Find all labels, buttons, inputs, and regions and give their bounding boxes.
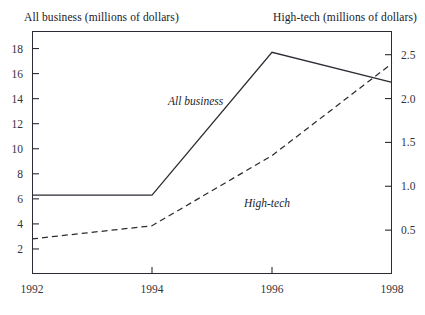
- right-tick-label: 2.0: [401, 93, 415, 105]
- left-tick-label: 6: [17, 193, 23, 205]
- left-tick-label: 14: [12, 93, 24, 105]
- left-tick-label: 4: [17, 218, 23, 230]
- right-axis-title: High-tech (millions of dollars): [273, 11, 417, 24]
- left-tick-label: 16: [12, 68, 24, 80]
- right-tick-label: 1.0: [401, 180, 415, 192]
- left-tick-label: 8: [17, 168, 23, 180]
- left-axis-title: All business (millions of dollars): [24, 11, 179, 24]
- series-annotation-high-tech: High-tech: [244, 197, 290, 209]
- left-tick-label: 2: [17, 243, 23, 255]
- x-tick-label: 1994: [141, 283, 164, 295]
- right-tick-label: 1.5: [401, 136, 415, 148]
- left-tick-label: 12: [12, 118, 24, 130]
- series-annotation-all-business: All business: [168, 95, 223, 107]
- chart-figure: All business (millions of dollars) High-…: [0, 0, 425, 315]
- plot-area: 24681012141618 0.51.01.52.02.5 199219941…: [32, 31, 392, 274]
- right-tick-label: 2.5: [401, 49, 415, 61]
- left-tick-label: 10: [12, 143, 24, 155]
- series-line-all-business: [32, 52, 392, 195]
- x-tick-label: 1992: [21, 283, 44, 295]
- left-tick-marks: [32, 49, 39, 249]
- right-tick-label: 0.5: [401, 224, 415, 236]
- series-line-high-tech: [32, 63, 392, 238]
- left-tick-label: 18: [12, 43, 24, 55]
- plot-canvas: [32, 31, 392, 274]
- x-tick-label: 1998: [381, 283, 404, 295]
- x-tick-marks: [152, 267, 272, 274]
- x-tick-label: 1996: [261, 283, 284, 295]
